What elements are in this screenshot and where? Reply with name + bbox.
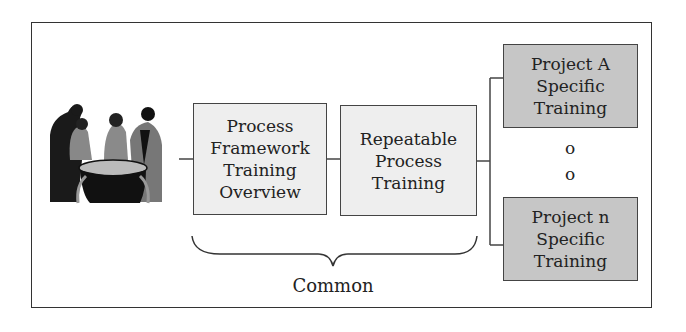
ellipsis-dot: o xyxy=(550,164,590,184)
brace xyxy=(192,236,477,266)
process-framework-training-box: Process Framework Training Overview xyxy=(193,103,327,215)
ellipsis-dot: o xyxy=(550,138,590,158)
common-label: Common xyxy=(283,275,383,296)
project-n-training-box: Project n Specific Training xyxy=(503,197,638,281)
people-group-icon xyxy=(49,104,163,203)
repeatable-process-training-box: Repeatable Process Training xyxy=(340,105,477,216)
project-a-training-box: Project A Specific Training xyxy=(503,44,638,128)
